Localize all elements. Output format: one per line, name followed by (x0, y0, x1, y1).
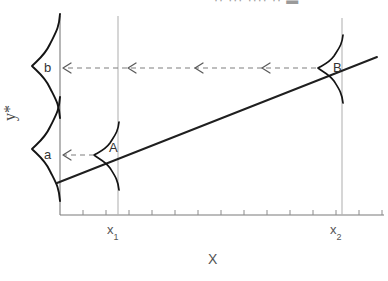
curve-label-a: a (44, 148, 51, 161)
x-tick-label-x2-sub: 2 (337, 232, 342, 242)
x-tick-label-x2: x2 (330, 223, 342, 240)
regression-distribution-figure: ·· ··· ···· ·· ▬ (0, 0, 388, 281)
distribution-curve-A (94, 122, 119, 190)
x-tick-label-x1-base: x (107, 222, 114, 237)
x-tick-label-x2-base: x (330, 222, 337, 237)
y-axis-label-wrapper: y* (6, 92, 50, 136)
curve-label-A: A (109, 141, 118, 154)
curve-label-b: b (44, 61, 51, 74)
projection-arrow-A-to-a (63, 150, 94, 160)
x-axis-label: X (208, 252, 217, 266)
axes-group (60, 16, 384, 215)
curve-label-B: B (333, 61, 342, 74)
y-axis-label: y* (1, 105, 19, 121)
x-axis-ticks (83, 210, 382, 215)
x-tick-label-x1-sub: 1 (114, 232, 119, 242)
projection-arrow-B-to-b (63, 63, 316, 73)
x-tick-label-x1: x1 (107, 223, 119, 240)
